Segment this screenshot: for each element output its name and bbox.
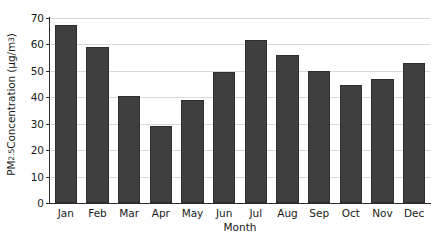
bar	[181, 100, 203, 203]
y-axis-tick-mark	[46, 150, 50, 151]
bars-layer	[50, 18, 430, 203]
x-axis-tick-label: Aug	[272, 206, 304, 220]
x-axis-tick-labels: JanFebMarAprMayJunJulAugSepOctNovDec	[50, 206, 430, 222]
bar	[403, 63, 425, 203]
y-axis-tick-mark	[46, 44, 50, 45]
bar	[245, 40, 267, 203]
y-axis-tick-label: 10	[18, 172, 44, 182]
bar	[150, 126, 172, 203]
bar	[118, 96, 140, 203]
x-axis-line	[49, 203, 431, 204]
x-axis-tick-label: Jul	[240, 206, 272, 220]
x-axis-tick-label: Jan	[50, 206, 82, 220]
y-axis-tick-mark	[46, 97, 50, 98]
x-axis-title: Month	[50, 221, 430, 233]
x-axis-tick-label: Feb	[82, 206, 114, 220]
x-axis-tick-label: Sep	[303, 206, 335, 220]
bar	[55, 25, 77, 203]
y-axis-tick-label: 60	[18, 39, 44, 49]
x-axis-tick-label: Dec	[398, 206, 430, 220]
x-axis-tick-label: May	[177, 206, 209, 220]
bar	[213, 72, 235, 203]
plot-area	[50, 18, 430, 203]
y-axis-tick-labels: 010203040506070	[18, 0, 44, 243]
y-axis-tick-label: 20	[18, 145, 44, 155]
bar	[276, 55, 298, 203]
x-axis-tick-label: Oct	[335, 206, 367, 220]
y-axis-title-prefix: PM	[5, 161, 17, 176]
y-axis-tick-mark	[46, 71, 50, 72]
bar	[340, 85, 362, 203]
y-axis-tick-label: 70	[18, 13, 44, 23]
y-axis-title-middle: Concentration (µg/m	[5, 42, 17, 149]
bar	[371, 79, 393, 203]
y-axis-tick-label: 50	[18, 66, 44, 76]
y-axis-title: PM2.5 Concentration (µg/m3)	[3, 3, 19, 206]
y-axis-tick-mark	[46, 203, 50, 204]
y-axis-tick-label: 40	[18, 92, 44, 102]
y-axis-tick-mark	[46, 124, 50, 125]
y-axis-tick-label: 30	[18, 119, 44, 129]
y-axis-tick-mark	[46, 18, 50, 19]
bar	[308, 71, 330, 203]
y-axis-tick-label: 0	[18, 198, 44, 208]
y-axis-title-subscript: 2.5	[7, 149, 16, 161]
bar-chart: PM2.5 Concentration (µg/m3) 010203040506…	[0, 0, 434, 243]
x-axis-tick-label: Apr	[145, 206, 177, 220]
y-axis-title-suffix: )	[5, 33, 17, 37]
bar	[86, 47, 108, 203]
x-axis-tick-label: Mar	[113, 206, 145, 220]
y-axis-tick-mark	[46, 177, 50, 178]
x-axis-tick-label: Jun	[208, 206, 240, 220]
x-axis-tick-label: Nov	[367, 206, 399, 220]
y-axis-title-superscript: 3	[7, 37, 16, 42]
